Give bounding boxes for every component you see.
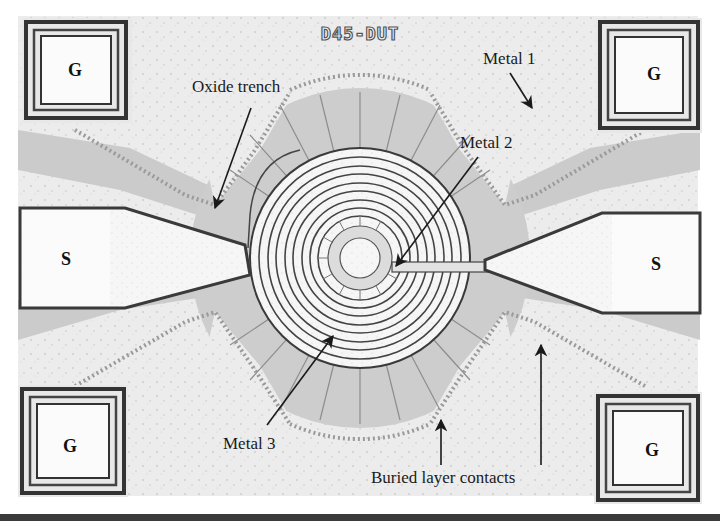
label-buried-layer-contacts: Buried layer contacts (371, 468, 515, 487)
figure-bottom-rule (0, 514, 720, 521)
ground-pad-top-left: G (22, 18, 132, 123)
inductor-micrograph: S S G G G G D45-DUT Oxide trench (0, 0, 720, 521)
label-metal-2: Metal 2 (460, 133, 512, 152)
pad-label-g-bottom-left: G (63, 436, 77, 456)
chip-id-label: D45-DUT (321, 24, 400, 44)
ground-pad-bottom-right: G (594, 392, 702, 504)
pad-label-s-right: S (651, 254, 661, 274)
pad-label-s-left: S (61, 249, 71, 269)
ground-pad-bottom-left: G (18, 385, 128, 497)
label-oxide-trench: Oxide trench (192, 77, 281, 96)
pad-label-g-top-left: G (68, 60, 82, 80)
pad-label-g-top-right: G (647, 64, 661, 84)
ground-pad-top-right: G (596, 18, 702, 133)
label-metal-1: Metal 1 (483, 49, 535, 68)
pad-label-g-bottom-right: G (645, 440, 659, 460)
label-metal-3: Metal 3 (223, 434, 275, 453)
